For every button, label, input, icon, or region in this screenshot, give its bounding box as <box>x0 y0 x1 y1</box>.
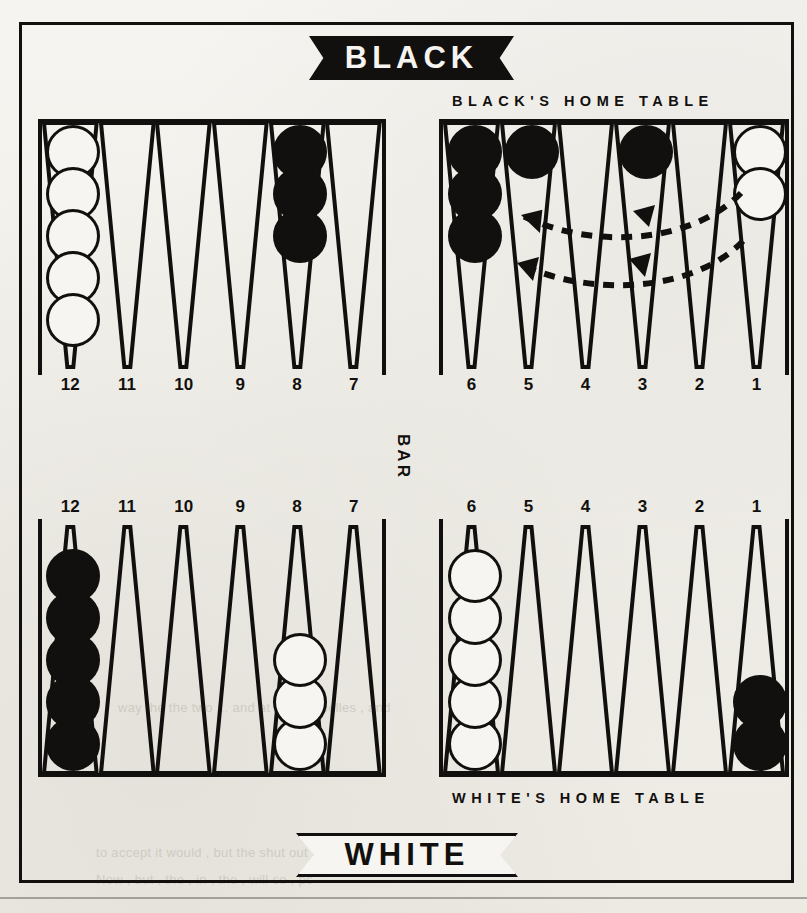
point-number-1: 1 <box>728 497 785 517</box>
white-checker[interactable] <box>733 167 787 221</box>
quadrant-top-right <box>443 123 785 371</box>
quadrant-bottom-right <box>443 523 785 773</box>
quadrant-side <box>382 119 386 375</box>
point-5[interactable] <box>500 123 557 371</box>
point-numbers-bottom-right: 654321 <box>443 497 785 519</box>
point-12[interactable] <box>42 123 99 371</box>
black-checker[interactable] <box>46 549 100 603</box>
white-checker[interactable] <box>273 633 327 687</box>
black-banner: BLACK <box>309 36 514 80</box>
point-numbers-top-right: 654321 <box>443 375 785 397</box>
quadrant-top-left <box>42 123 382 371</box>
point-4[interactable] <box>557 123 614 371</box>
black-home-table-caption: BLACK'S HOME TABLE <box>452 93 714 109</box>
white-banner-label: WHITE <box>345 837 470 873</box>
point-number-12: 12 <box>42 375 99 395</box>
white-banner: WHITE <box>296 833 518 877</box>
point-number-11: 11 <box>99 497 156 517</box>
point-number-3: 3 <box>614 497 671 517</box>
point-11[interactable] <box>99 523 156 773</box>
point-number-5: 5 <box>500 375 557 395</box>
point-12[interactable] <box>42 523 99 773</box>
point-number-4: 4 <box>557 497 614 517</box>
point-7[interactable] <box>325 523 382 773</box>
point-number-1: 1 <box>728 375 785 395</box>
black-checker[interactable] <box>505 125 559 179</box>
black-checker[interactable] <box>733 675 787 729</box>
point-4[interactable] <box>557 523 614 773</box>
point-number-12: 12 <box>42 497 99 517</box>
white-checker[interactable] <box>46 293 100 347</box>
point-1[interactable] <box>728 523 785 773</box>
point-number-5: 5 <box>500 497 557 517</box>
point-5[interactable] <box>500 523 557 773</box>
point-number-4: 4 <box>557 375 614 395</box>
point-number-2: 2 <box>671 497 728 517</box>
point-number-10: 10 <box>155 375 212 395</box>
point-number-7: 7 <box>325 497 382 517</box>
point-number-10: 10 <box>155 497 212 517</box>
point-number-6: 6 <box>443 497 500 517</box>
point-number-11: 11 <box>99 375 156 395</box>
black-checker[interactable] <box>448 209 502 263</box>
point-11[interactable] <box>99 123 156 371</box>
point-10[interactable] <box>155 523 212 773</box>
point-1[interactable] <box>728 123 785 371</box>
point-9[interactable] <box>212 123 269 371</box>
point-number-3: 3 <box>614 375 671 395</box>
bar-label-text: BAR <box>393 434 413 480</box>
bar-label: BAR <box>383 409 423 505</box>
point-number-2: 2 <box>671 375 728 395</box>
white-home-table-caption: WHITE'S HOME TABLE <box>452 790 710 806</box>
black-checker[interactable] <box>273 209 327 263</box>
point-number-9: 9 <box>212 497 269 517</box>
point-6[interactable] <box>443 123 500 371</box>
point-2[interactable] <box>671 123 728 371</box>
point-8[interactable] <box>269 123 326 371</box>
point-number-6: 6 <box>443 375 500 395</box>
black-checker[interactable] <box>619 125 673 179</box>
point-number-9: 9 <box>212 375 269 395</box>
point-numbers-top-left: 121110987 <box>42 375 382 397</box>
page-rule-bottom <box>0 897 807 899</box>
point-10[interactable] <box>155 123 212 371</box>
point-8[interactable] <box>269 523 326 773</box>
point-number-7: 7 <box>325 375 382 395</box>
point-9[interactable] <box>212 523 269 773</box>
point-7[interactable] <box>325 123 382 371</box>
point-3[interactable] <box>614 123 671 371</box>
quadrant-side <box>382 519 386 777</box>
point-6[interactable] <box>443 523 500 773</box>
point-2[interactable] <box>671 523 728 773</box>
point-number-8: 8 <box>269 497 326 517</box>
point-numbers-bottom-left: 121110987 <box>42 497 382 519</box>
point-number-8: 8 <box>269 375 326 395</box>
point-3[interactable] <box>614 523 671 773</box>
black-banner-label: BLACK <box>345 40 479 76</box>
white-checker[interactable] <box>448 549 502 603</box>
quadrant-bottom-left <box>42 523 382 773</box>
